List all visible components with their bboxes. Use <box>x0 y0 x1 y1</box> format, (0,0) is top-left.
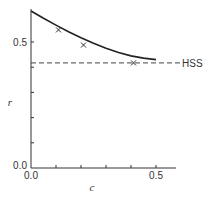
model-curve <box>31 11 156 60</box>
x-tick-label-0.5: 0.5 <box>149 170 163 181</box>
hss-label: HSS <box>182 58 203 69</box>
x-axis-label: c <box>90 181 95 193</box>
x-tick-label-0.0: 0.0 <box>24 170 38 181</box>
y-tick-label-0.5: 0.5 <box>13 37 27 48</box>
chart: 0.5 0.0 0.0 0.5 r c HSS <box>0 0 210 198</box>
plot-area <box>31 11 180 65</box>
data-point-x-marker <box>81 43 86 48</box>
data-point-x-marker <box>56 27 61 32</box>
y-axis-label: r <box>8 96 13 108</box>
